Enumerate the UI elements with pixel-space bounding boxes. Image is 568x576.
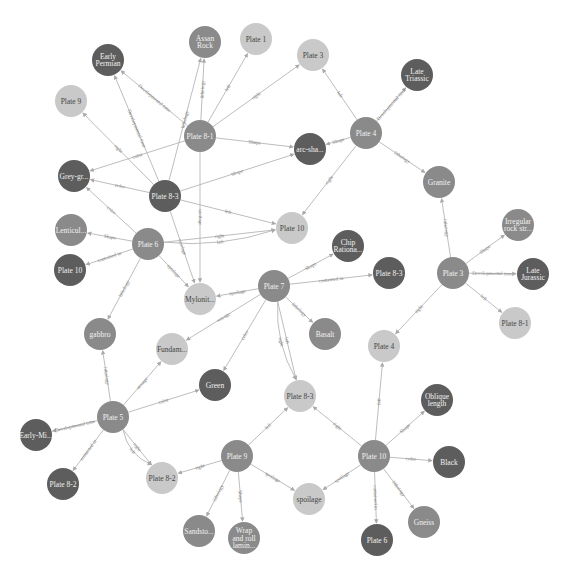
- graph-node-granite[interactable]: Granite: [423, 166, 455, 198]
- graph-node-plate4b[interactable]: Plate 4: [368, 330, 400, 362]
- graph-node-plate6a[interactable]: Plate 6: [132, 228, 164, 260]
- graph-node-plate9b[interactable]: Plate 9: [221, 440, 253, 472]
- node-label: Plate 8-2: [50, 480, 77, 489]
- node-label: gabbro: [90, 330, 111, 339]
- edge-developmental-time: Developmental time: [53, 419, 98, 433]
- edge-lithology: lithology: [379, 142, 425, 173]
- edge-shape: Shape: [180, 154, 294, 191]
- node-label: Triassic: [405, 74, 429, 83]
- node-label: Plate 6: [138, 240, 159, 249]
- edge-developmental-time: Developmental time: [376, 87, 407, 121]
- node-label: Plate 9: [61, 97, 82, 106]
- graph-node-black[interactable]: Black: [433, 446, 465, 478]
- graph-node-fundam[interactable]: Fundam...: [156, 333, 188, 365]
- edge-lithology: lithology: [199, 59, 205, 120]
- edge-lithology: lithology: [286, 297, 313, 322]
- edge-label: Shape: [248, 139, 261, 145]
- edge-left: left: [208, 54, 248, 122]
- node-label: Jurassic: [521, 273, 545, 282]
- graph-node-irreg[interactable]: Irregularrock str...: [502, 209, 534, 241]
- graph-node-chip[interactable]: ChipRationa...: [332, 230, 364, 262]
- edge-developmental-time: Developmental time: [115, 76, 159, 182]
- graph-node-plate7[interactable]: Plate 7: [258, 270, 290, 302]
- graph-node-basalt[interactable]: Basalt: [309, 318, 341, 350]
- graph-node-plate81a[interactable]: Plate 8-1: [184, 120, 216, 152]
- edge-shape: Shape: [88, 233, 133, 241]
- graph-node-assan[interactable]: AssanRock: [189, 26, 221, 58]
- edge-lithology: lithology: [103, 351, 111, 401]
- node-label: Plate 8-3: [287, 392, 314, 401]
- edge-shape: Shape: [237, 472, 243, 521]
- edge-label: left: [217, 239, 225, 245]
- graph-node-plate83a[interactable]: Plate 8-3: [149, 180, 181, 212]
- graph-node-earlymi[interactable]: Early-Mi...: [19, 419, 52, 451]
- graph-node-plate4a[interactable]: Plate 4: [350, 117, 382, 149]
- edge-label: contained in: [373, 485, 379, 510]
- node-label: Plate 10: [280, 224, 305, 233]
- edge-label: left: [224, 83, 232, 92]
- edge-lithology: lithology: [207, 470, 230, 516]
- node-label: Lenticul...: [56, 226, 87, 235]
- graph-node-plate83b[interactable]: Plate 8-3: [373, 257, 405, 289]
- graph-node-spoilage[interactable]: spoilage: [293, 483, 325, 515]
- node-label: Plate 3: [303, 51, 324, 60]
- edge-lithology: lithology: [169, 58, 201, 180]
- graph-node-greygr[interactable]: Grey-gr...: [58, 160, 90, 192]
- edge-contained-in: contained in: [73, 430, 103, 471]
- edge-color: color: [87, 188, 137, 234]
- edge-label: lithology: [442, 219, 450, 238]
- graph-node-mylonit[interactable]: Mylonit...: [184, 283, 216, 315]
- edge-color: color: [91, 180, 150, 193]
- graph-node-latejur[interactable]: LateJurassic: [517, 258, 549, 290]
- edge-label: Developmental time: [127, 109, 148, 149]
- graph-node-plate3a[interactable]: Plate 3: [297, 39, 329, 71]
- edge-label: lithology: [199, 80, 205, 99]
- graph-node-gneiss[interactable]: Gneiss: [408, 506, 440, 538]
- graph-node-plate6b[interactable]: Plate 6: [361, 524, 393, 556]
- graph-node-earlyperm[interactable]: EarlyPermian: [92, 44, 124, 76]
- edge-lithology: lithology: [442, 199, 451, 257]
- node-label: Basalt: [316, 330, 336, 339]
- graph-node-plate9a[interactable]: Plate 9: [55, 85, 87, 117]
- edge-label: Developmental time: [55, 419, 97, 433]
- graph-node-arcsha[interactable]: arc-sha...: [294, 133, 326, 165]
- graph-node-plate10c[interactable]: Plate 10: [358, 440, 390, 472]
- node-label: Gneiss: [414, 518, 434, 527]
- edge-spoilage: spoilage: [251, 464, 295, 490]
- graph-node-oblique[interactable]: Obliquelength: [421, 384, 453, 416]
- edge-color: color: [90, 141, 185, 171]
- graph-node-plate10a[interactable]: Plate 10: [276, 212, 308, 244]
- edge-label: Developmental time: [376, 87, 407, 121]
- graph-node-wrap[interactable]: Wrapand rolllamin...: [228, 522, 260, 554]
- graph-node-lenticul[interactable]: Lenticul...: [55, 214, 87, 246]
- graph-node-plate5[interactable]: Plate 5: [97, 401, 129, 433]
- graph-node-plate3b[interactable]: Plate 3: [437, 257, 469, 289]
- edge-label: storage: [216, 311, 232, 323]
- graph-node-plate82b[interactable]: Plate 8-2: [146, 462, 178, 494]
- edge-label: color: [158, 397, 170, 405]
- graph-node-green[interactable]: Green: [199, 369, 231, 401]
- graph-node-latetri[interactable]: LateTriassic: [401, 59, 433, 91]
- edge-color: color: [128, 390, 199, 412]
- graph-node-plate1[interactable]: Plate 1: [240, 23, 272, 55]
- edge-label: contained in: [97, 250, 122, 263]
- node-label: spoilage: [297, 495, 323, 504]
- edge-color: color: [224, 300, 266, 371]
- knowledge-graph: lithologyleftrightDevelopmental timeShap…: [0, 0, 568, 576]
- node-label: Fundam...: [157, 345, 187, 354]
- graph-node-sandsto[interactable]: Sandsto...: [183, 515, 215, 547]
- edge-left: left: [465, 283, 501, 312]
- node-label: Sandsto...: [184, 527, 214, 536]
- node-label: Plate 7: [264, 282, 285, 291]
- node-label: Plate 8-3: [376, 269, 403, 278]
- graph-node-gabbro[interactable]: gabbro: [84, 318, 116, 350]
- graph-node-plate83c[interactable]: Plate 8-3: [284, 380, 316, 412]
- graph-node-plate81b[interactable]: Plate 8-1: [499, 307, 531, 339]
- edge-label: color: [406, 456, 417, 462]
- graph-node-plate82a[interactable]: Plate 8-2: [47, 468, 79, 500]
- graph-node-plate10b[interactable]: Plate 10: [54, 254, 86, 286]
- edge-left: left: [249, 408, 288, 445]
- edge-right: right: [178, 461, 221, 474]
- node-label: rock str...: [504, 224, 532, 233]
- edge-right: right: [213, 65, 299, 127]
